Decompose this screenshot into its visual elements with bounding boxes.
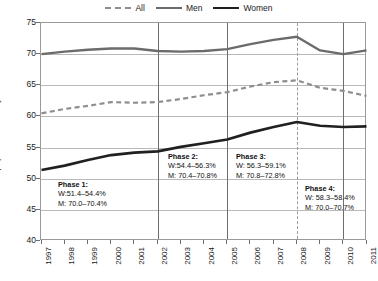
phase-2-annotation: Phase 2: W:54.4–56.3% M: 70.4–70.8% (168, 152, 217, 180)
x-tick-label-2007: 2007 (276, 247, 285, 265)
legend-label-all: All (135, 4, 144, 13)
phase-2-title: Phase 2: (168, 152, 198, 161)
y-tick-label-55: 55 (14, 142, 36, 152)
phase-3-women: W: 56.3–59.1% (236, 161, 286, 170)
series-line-men (42, 37, 367, 54)
x-tick-label-2002: 2002 (160, 247, 169, 265)
legend-item-women: Women (213, 4, 272, 13)
x-tick-label-2001: 2001 (137, 247, 146, 265)
x-tick-label-1997: 1997 (44, 247, 53, 265)
phase-4-men: M: 70.0–70.7% (305, 203, 355, 212)
phase-4-women: W: 58.3–58.4% (305, 193, 355, 202)
x-tick-label-2008: 2008 (299, 247, 308, 265)
employment-rate-line-chart: All Men Women % population 15–64 years 4… (0, 0, 378, 281)
phase-3-title: Phase 3: (236, 152, 266, 161)
x-tick-label-2005: 2005 (230, 247, 239, 265)
phase-4-annotation: Phase 4: W: 58.3–58.4% M: 70.0–70.7% (305, 184, 355, 212)
legend-label-men: Men (186, 4, 203, 13)
y-tick-label-70: 70 (14, 48, 36, 58)
x-tick-label-2011: 2011 (369, 247, 378, 264)
x-tick-label-2003: 2003 (183, 247, 192, 265)
y-tick-label-40: 40 (14, 235, 36, 245)
y-tick-label-65: 65 (14, 79, 36, 89)
phase-2-men: M: 70.4–70.8% (168, 171, 217, 180)
x-tick-label-2006: 2006 (253, 247, 262, 265)
x-tick-label-2009: 2009 (323, 247, 332, 265)
x-tick-label-1999: 1999 (90, 247, 99, 265)
y-tick-label-45: 45 (14, 204, 36, 214)
y-axis-label: % population 15–64 years (0, 82, 1, 180)
phase-1-men: M: 70.0–70.4% (58, 199, 107, 208)
legend-item-men: Men (156, 4, 203, 13)
phase-3-annotation: Phase 3: W: 56.3–59.1% M: 70.8–72.8% (236, 152, 286, 180)
series-line-all (42, 80, 367, 113)
line-solid-icon (156, 7, 182, 9)
chart-legend: All Men Women (0, 1, 378, 15)
line-solid-icon (213, 7, 239, 9)
phase-2-women: W:54.4–56.3% (168, 161, 217, 170)
phase-4-title: Phase 4: (305, 184, 335, 193)
x-tick-label-2000: 2000 (114, 247, 123, 265)
x-tick-label-2010: 2010 (346, 247, 355, 265)
x-tick-label-2004: 2004 (207, 247, 216, 265)
legend-item-all: All (105, 4, 144, 13)
legend-label-women: Women (243, 4, 272, 13)
y-tick-mark-40 (36, 240, 40, 241)
phase-3-men: M: 70.8–72.8% (236, 171, 286, 180)
x-tick-label-1998: 1998 (67, 247, 76, 265)
phase-1-women: W:51.4–54.4% (58, 189, 107, 198)
y-tick-label-60: 60 (14, 110, 36, 120)
y-tick-label-75: 75 (14, 17, 36, 27)
phase-1-annotation: Phase 1: W:51.4–54.4% M: 70.0–70.4% (58, 180, 107, 208)
line-dashed-icon (105, 7, 131, 9)
phase-1-title: Phase 1: (58, 180, 88, 189)
y-tick-label-50: 50 (14, 173, 36, 183)
